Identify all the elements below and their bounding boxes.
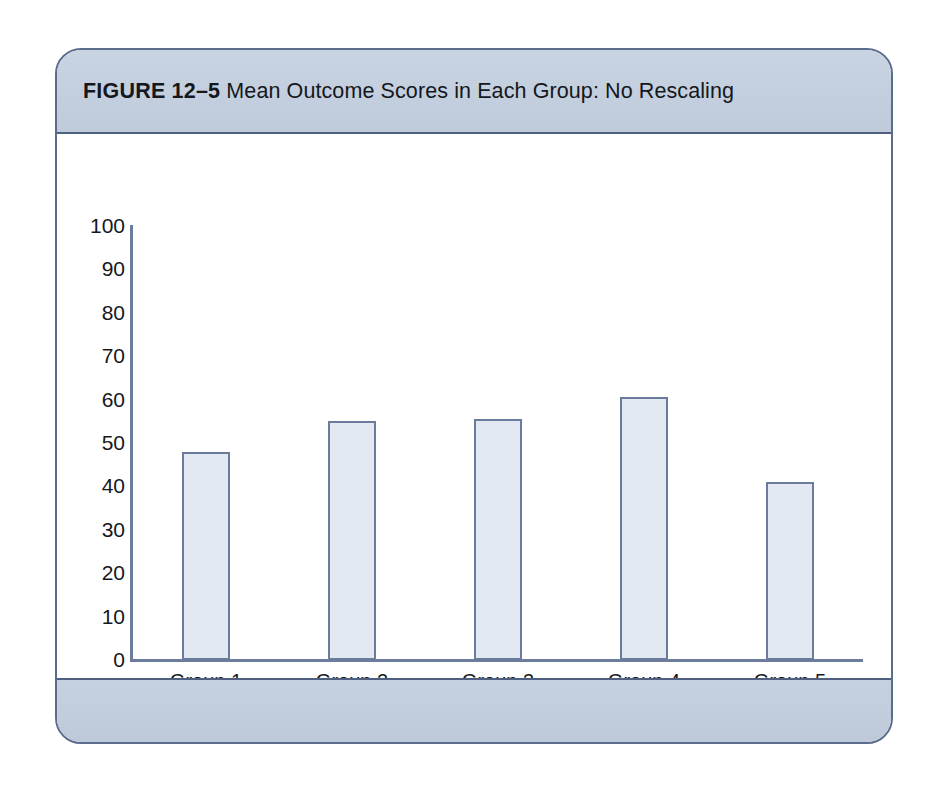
bar bbox=[766, 482, 814, 660]
y-axis-tick-labels: 0102030405060708090100 bbox=[57, 136, 125, 680]
figure-header-band: FIGURE 12–5 Mean Outcome Scores in Each … bbox=[57, 50, 891, 134]
figure-footer-band bbox=[57, 678, 891, 742]
y-tick-label: 20 bbox=[67, 561, 125, 585]
figure-number: FIGURE 12–5 bbox=[83, 79, 220, 103]
y-tick-label: 90 bbox=[67, 257, 125, 281]
y-tick-label: 10 bbox=[67, 605, 125, 629]
plot-area: 0102030405060708090100 Group 1Group 2Gro… bbox=[57, 136, 891, 676]
figure-title-text: Mean Outcome Scores in Each Group: No Re… bbox=[226, 79, 734, 103]
bar bbox=[474, 419, 522, 660]
y-tick-label: 80 bbox=[67, 301, 125, 325]
y-tick-label: 0 bbox=[67, 648, 125, 672]
y-tick-label: 50 bbox=[67, 431, 125, 455]
bar bbox=[182, 452, 230, 660]
bar-chart: 0102030405060708090100 Group 1Group 2Gro… bbox=[57, 136, 893, 680]
bar bbox=[328, 421, 376, 660]
figure-frame: FIGURE 12–5 Mean Outcome Scores in Each … bbox=[55, 48, 893, 744]
y-tick-label: 30 bbox=[67, 518, 125, 542]
bar bbox=[620, 397, 668, 660]
figure-title: FIGURE 12–5 Mean Outcome Scores in Each … bbox=[83, 79, 734, 104]
y-tick-label: 70 bbox=[67, 344, 125, 368]
y-axis-line bbox=[130, 225, 133, 662]
y-tick-label: 40 bbox=[67, 474, 125, 498]
y-tick-label: 100 bbox=[67, 214, 125, 238]
y-tick-label: 60 bbox=[67, 388, 125, 412]
